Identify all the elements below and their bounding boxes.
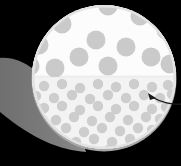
fine-dot-36 bbox=[115, 126, 125, 136]
fine-dot-0 bbox=[39, 81, 49, 91]
fine-dot-35 bbox=[97, 123, 107, 133]
fine-dot-7 bbox=[163, 80, 173, 90]
fine-dot-2 bbox=[75, 83, 85, 93]
fine-dot-30 bbox=[141, 112, 151, 122]
fine-dot-27 bbox=[87, 116, 97, 126]
coarse-dot-11 bbox=[99, 57, 118, 76]
fine-dot-19 bbox=[93, 101, 103, 111]
fine-dot-9 bbox=[49, 93, 59, 103]
fine-dot-28 bbox=[105, 112, 115, 122]
fine-dot-6 bbox=[147, 82, 157, 92]
coarse-dot-5 bbox=[87, 31, 106, 50]
magnifier-illustration bbox=[0, 0, 181, 166]
fine-dot-34 bbox=[79, 127, 89, 137]
fine-dot-21 bbox=[129, 101, 139, 111]
fine-dot-12 bbox=[103, 90, 113, 100]
fine-dot-37 bbox=[133, 123, 143, 133]
coarse-dot-8 bbox=[142, 48, 161, 67]
coarse-dot-10 bbox=[46, 59, 65, 78]
fine-dot-13 bbox=[121, 93, 131, 103]
fine-dot-14 bbox=[139, 90, 149, 100]
coarse-dot-7 bbox=[70, 48, 89, 67]
fine-dot-1 bbox=[57, 79, 67, 89]
magnifier-figure bbox=[0, 0, 181, 166]
fine-dot-3 bbox=[93, 79, 103, 89]
fine-dot-26 bbox=[69, 112, 79, 122]
fine-dot-33 bbox=[61, 123, 71, 133]
fine-dot-5 bbox=[129, 79, 139, 89]
fine-dot-29 bbox=[123, 115, 133, 125]
fine-dot-4 bbox=[111, 82, 121, 92]
coarse-dot-6 bbox=[117, 38, 136, 57]
fine-dot-17 bbox=[57, 101, 67, 111]
fine-dot-10 bbox=[67, 90, 77, 100]
fine-dot-11 bbox=[85, 94, 95, 104]
fine-dot-41 bbox=[89, 134, 99, 144]
